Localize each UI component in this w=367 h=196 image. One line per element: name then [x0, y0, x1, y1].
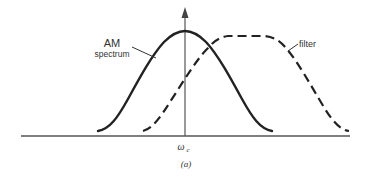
- spectrum-diagram: AM spectrum filter ω c (a): [0, 0, 367, 196]
- am-spectrum-label-line2: spectrum: [95, 49, 130, 59]
- center-frequency-label: ω: [177, 141, 184, 152]
- am-spectrum-leader: [132, 47, 156, 58]
- filter-curve: [143, 36, 349, 131]
- am-spectrum-label-line1: AM: [104, 37, 121, 49]
- axis-arrow-icon: [182, 7, 189, 18]
- filter-label: filter: [299, 39, 316, 49]
- figure-caption: (a): [181, 159, 192, 169]
- center-frequency-subscript: c: [186, 146, 190, 154]
- diagram-canvas: AM spectrum filter ω c (a): [0, 0, 367, 196]
- filter-leader: [288, 44, 298, 51]
